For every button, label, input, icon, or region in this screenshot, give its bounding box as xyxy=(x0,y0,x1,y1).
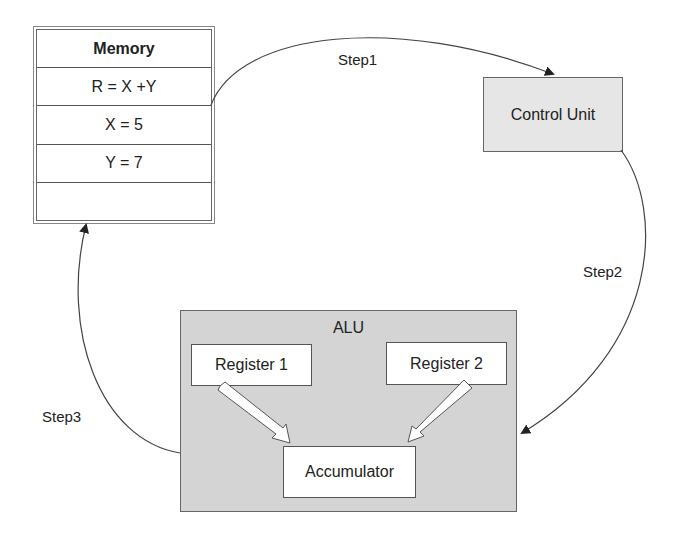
register-1-label: Register 1 xyxy=(215,356,288,374)
memory-row-empty xyxy=(37,183,211,220)
control-unit-label: Control Unit xyxy=(511,106,595,124)
accumulator-box: Accumulator xyxy=(283,446,416,498)
step3-label: Step3 xyxy=(42,408,81,425)
step2-label: Step2 xyxy=(583,263,622,280)
register-2-box: Register 2 xyxy=(386,342,507,385)
memory-row-x: X = 5 xyxy=(37,106,211,144)
memory-row-y: Y = 7 xyxy=(37,145,211,183)
step1-label: Step1 xyxy=(338,51,377,68)
control-unit-box: Control Unit xyxy=(483,77,623,152)
memory-title: Memory xyxy=(37,30,211,68)
step2-arrow xyxy=(522,150,646,433)
alu-title: ALU xyxy=(181,319,516,337)
register-2-label: Register 2 xyxy=(410,355,483,373)
register-1-box: Register 1 xyxy=(191,344,312,386)
alu-box: ALU Register 1 Register 2 Accumulator xyxy=(180,310,517,512)
memory-table: Memory R = X +Y X = 5 Y = 7 xyxy=(36,29,212,221)
step3-arrow xyxy=(78,225,180,453)
memory-row-instruction: R = X +Y xyxy=(37,68,211,106)
accumulator-label: Accumulator xyxy=(305,463,394,481)
